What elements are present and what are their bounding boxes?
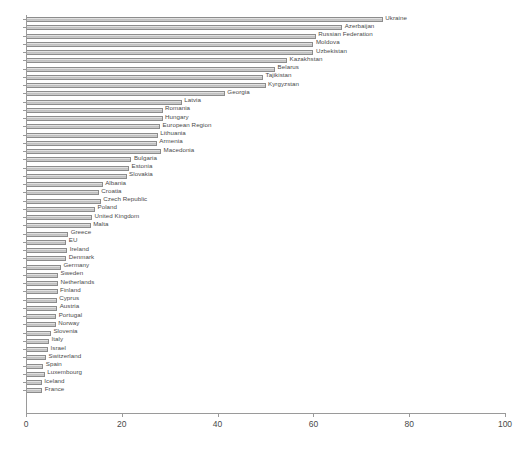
x-axis-spine <box>26 413 505 414</box>
bar-row: Finland <box>26 288 505 296</box>
y-axis-tick <box>23 143 26 144</box>
bar-row: Israel <box>26 346 505 354</box>
bar-row: Lithuania <box>26 132 505 140</box>
y-axis-tick <box>23 349 26 350</box>
bar-row: Moldova <box>26 41 505 49</box>
y-axis-tick <box>23 77 26 78</box>
bar-label: Latvia <box>184 96 201 104</box>
bar-row: Kyrgyzstan <box>26 82 505 90</box>
y-axis-tick <box>23 258 26 259</box>
x-axis-tick-label: 20 <box>117 419 126 429</box>
bar-label: Malta <box>93 220 108 228</box>
bar-row: Georgia <box>26 90 505 98</box>
y-axis-tick <box>23 201 26 202</box>
horizontal-bar-chart: UkraineAzerbaijanRussian FederationMoldo… <box>0 0 530 456</box>
bar-label: Poland <box>97 203 117 211</box>
bar-label: Ireland <box>70 245 89 253</box>
y-axis-tick <box>23 300 26 301</box>
bar <box>26 108 163 113</box>
bar-row: Portugal <box>26 313 505 321</box>
bar-label: Kazakhstan <box>290 55 323 63</box>
bar <box>26 355 46 360</box>
bar-row: Kazakhstan <box>26 57 505 65</box>
bar-row: France <box>26 387 505 395</box>
y-axis-tick <box>23 184 26 185</box>
bar <box>26 133 158 138</box>
bar <box>26 124 160 129</box>
bar <box>26 364 43 369</box>
bar-label: Lithuania <box>160 129 186 137</box>
bar-label: Estonia <box>131 162 152 170</box>
y-axis-tick <box>23 333 26 334</box>
bar-row: EU <box>26 239 505 247</box>
bar-label: Denmark <box>69 253 94 261</box>
bar-label: Sweden <box>61 269 84 277</box>
bar-row: European Region <box>26 123 505 131</box>
bar <box>26 67 275 72</box>
x-axis-tick-label: 40 <box>213 419 222 429</box>
y-axis-tick <box>23 192 26 193</box>
y-axis-tick <box>23 52 26 53</box>
bar <box>26 25 342 30</box>
bar <box>26 248 67 253</box>
bar-label: Israel <box>51 344 66 352</box>
y-axis-tick <box>23 267 26 268</box>
bar-label: Slovenia <box>53 327 77 335</box>
y-axis-tick <box>23 36 26 37</box>
y-axis-tick <box>23 382 26 383</box>
y-axis-tick <box>23 234 26 235</box>
bar-row: Croatia <box>26 189 505 197</box>
bar-label: Uzbekistan <box>316 47 347 55</box>
bar-label: Armenia <box>159 137 182 145</box>
bar-label: Croatia <box>101 187 121 195</box>
bar-row: Romania <box>26 107 505 115</box>
y-axis-tick <box>23 60 26 61</box>
y-axis-tick <box>23 291 26 292</box>
bar <box>26 199 101 204</box>
bar <box>26 256 66 261</box>
bar <box>26 388 42 393</box>
y-axis-spine <box>26 15 27 413</box>
bar-row: Uzbekistan <box>26 49 505 57</box>
bar <box>26 281 58 286</box>
y-axis-tick <box>23 275 26 276</box>
bar-row: Netherlands <box>26 280 505 288</box>
x-axis-tick-label: 60 <box>309 419 318 429</box>
bar-label: Tajikistan <box>266 71 292 79</box>
bar <box>26 141 157 146</box>
bar-row: Estonia <box>26 165 505 173</box>
bar-label: Bulgaria <box>134 154 157 162</box>
bar <box>26 314 56 319</box>
y-axis-tick <box>23 209 26 210</box>
y-axis-tick <box>23 283 26 284</box>
bar-label: Russian Federation <box>318 30 373 38</box>
bar-label: Switzerland <box>49 352 82 360</box>
bar-row: Russian Federation <box>26 33 505 41</box>
bar-label: Slovakia <box>129 170 153 178</box>
bar-row: Slovakia <box>26 173 505 181</box>
bar-row: Bulgaria <box>26 156 505 164</box>
bar-row: Switzerland <box>26 354 505 362</box>
bar-label: Czech Republic <box>103 195 147 203</box>
bar-label: Iceland <box>44 377 64 385</box>
y-axis-tick <box>23 69 26 70</box>
bar <box>26 298 57 303</box>
bar <box>26 273 58 278</box>
x-axis-tick <box>26 413 27 417</box>
bar <box>26 75 263 80</box>
bar-row: Azerbaijan <box>26 24 505 32</box>
bar <box>26 322 56 327</box>
bar-row: Malta <box>26 222 505 230</box>
bar-row: Germany <box>26 264 505 272</box>
bar-label: EU <box>69 236 78 244</box>
plot-area: UkraineAzerbaijanRussian FederationMoldo… <box>26 16 505 412</box>
y-axis-tick <box>23 250 26 251</box>
bar <box>26 17 383 22</box>
bar <box>26 347 48 352</box>
bar <box>26 265 61 270</box>
y-axis-tick <box>23 159 26 160</box>
y-axis-tick <box>23 118 26 119</box>
bar-label: Macedonia <box>164 146 195 154</box>
bar-label: European Region <box>163 121 212 129</box>
bar <box>26 116 163 121</box>
